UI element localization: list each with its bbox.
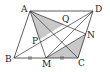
label-n: N (87, 30, 95, 40)
label-a: A (20, 4, 28, 14)
label-m: M (42, 59, 51, 69)
geometry-diagram: A D B C M N Q P (0, 0, 110, 72)
label-p: P (32, 36, 38, 46)
label-b: B (5, 54, 12, 64)
label-q: Q (62, 14, 69, 24)
label-d: D (95, 4, 102, 14)
segment-ac (30, 11, 78, 58)
label-c: C (78, 58, 85, 68)
